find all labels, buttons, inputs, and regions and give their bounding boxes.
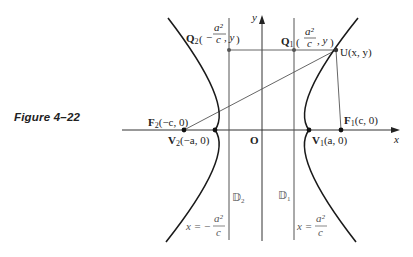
svg-text:c: c xyxy=(307,37,312,49)
svg-text:Q2: Q2 xyxy=(186,32,199,46)
svg-text:a²: a² xyxy=(305,25,315,37)
line-u-f1 xyxy=(336,50,341,130)
svg-text:c: c xyxy=(216,33,221,45)
line-f2-u xyxy=(184,50,336,130)
svg-text:c: c xyxy=(216,226,221,238)
svg-text:a²: a² xyxy=(214,21,224,33)
svg-text:): ) xyxy=(330,36,334,49)
point-f1 xyxy=(339,128,344,133)
svg-text:x =: x = xyxy=(296,220,312,232)
d1-equation: x = a² c xyxy=(296,212,327,238)
d1-label: 𝔻1 xyxy=(278,189,291,203)
hyperbola-diagram: y x O F2(−c, 0) V2(−a, 0) V1(a, 0) F1(c,… xyxy=(0,0,413,257)
svg-text:(: ( xyxy=(296,36,300,49)
point-q2 xyxy=(227,48,231,52)
y-axis xyxy=(259,15,265,241)
svg-text:, y: , y xyxy=(317,34,328,46)
point-v1 xyxy=(307,128,312,133)
q2-label: Q2 ( − a² c , y ) xyxy=(186,21,240,46)
v2-label: V2(−a, 0) xyxy=(168,134,210,148)
d2-label: 𝔻2 xyxy=(232,191,245,205)
svg-text:): ) xyxy=(236,33,240,46)
svg-text:c: c xyxy=(318,226,323,238)
y-axis-arrow-icon xyxy=(259,15,265,24)
y-axis-label: y xyxy=(251,11,257,23)
point-v2 xyxy=(213,128,218,133)
origin-label: O xyxy=(250,134,259,146)
f2-label: F2(−c, 0) xyxy=(148,116,188,130)
svg-text:(: ( xyxy=(199,33,203,46)
svg-text:a²: a² xyxy=(316,212,326,224)
u-label: U(x, y) xyxy=(340,46,372,59)
svg-text:x = −: x = − xyxy=(185,220,211,232)
svg-text:, y: , y xyxy=(224,31,235,43)
point-f2 xyxy=(182,128,187,133)
v1-label: V1(a, 0) xyxy=(312,134,347,148)
svg-text:a²: a² xyxy=(214,212,224,224)
q1-label: Q1 ( a² c , y ) xyxy=(281,25,334,49)
svg-text:−: − xyxy=(206,31,212,43)
d2-equation: x = − a² c xyxy=(185,212,225,238)
svg-text:Q1: Q1 xyxy=(281,35,294,49)
point-u xyxy=(334,48,338,52)
f1-label: F1(c, 0) xyxy=(344,114,378,128)
x-axis-label: x xyxy=(393,133,399,145)
